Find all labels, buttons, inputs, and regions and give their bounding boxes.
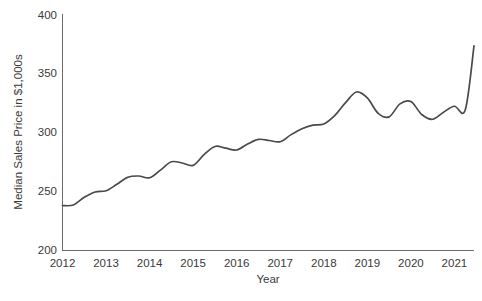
x-tick-label: 2013 xyxy=(93,257,119,269)
x-tick-label: 2021 xyxy=(442,257,468,269)
x-tick-label: 2020 xyxy=(398,257,424,269)
chart-container: 400 350 300 250 200 20122013201420152016… xyxy=(0,0,482,301)
y-tick-label: 400 xyxy=(38,9,57,21)
x-tick-label: 2015 xyxy=(180,257,206,269)
x-tick-label: 2019 xyxy=(355,257,381,269)
y-tick-label: 200 xyxy=(38,244,57,256)
y-axis-tick-labels: 400 350 300 250 200 xyxy=(38,9,57,256)
x-tick-label: 2014 xyxy=(137,257,163,269)
x-tick-label: 2017 xyxy=(267,257,293,269)
x-tick-label: 2018 xyxy=(311,257,337,269)
x-axis-tick-labels: 2012201320142015201620172018201920202021 xyxy=(50,257,467,269)
y-tick-label: 250 xyxy=(38,185,57,197)
y-tick-label: 350 xyxy=(38,67,57,79)
y-axis-title: Median Sales Price in $1,000s xyxy=(12,54,24,210)
data-line-median-sales-price xyxy=(63,46,475,206)
y-tick-label: 300 xyxy=(38,126,57,138)
x-tick-label: 2012 xyxy=(50,257,76,269)
line-chart: 400 350 300 250 200 20122013201420152016… xyxy=(0,0,482,301)
x-axis-title: Year xyxy=(256,273,279,285)
x-tick-label: 2016 xyxy=(224,257,250,269)
